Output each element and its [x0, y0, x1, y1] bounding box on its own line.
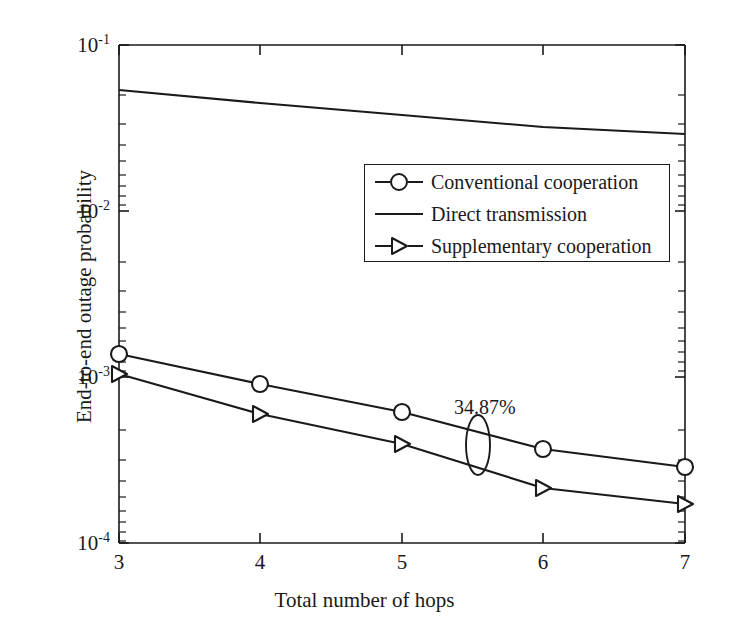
x-tick-label-0: 3: [114, 550, 125, 575]
legend-marker-circle-icon: [373, 170, 425, 194]
y-minor-ticks: [119, 95, 685, 541]
legend-marker-line-icon: [373, 202, 425, 226]
legend-entry-direct-transmission: Direct transmission: [373, 199, 587, 229]
x-tick-label-2: 5: [397, 550, 408, 575]
series-direct-transmission: [119, 90, 685, 134]
legend: Conventional cooperation Direct transmis…: [364, 164, 670, 262]
x-tick-label-4: 7: [680, 550, 691, 575]
x-tick-label-3: 6: [538, 550, 549, 575]
gap-annotation-ellipse: [466, 415, 490, 475]
legend-label-supplementary-cooperation: Supplementary cooperation: [431, 235, 652, 258]
legend-marker-triangle-right-icon: [373, 234, 425, 258]
axis-frame: [119, 45, 685, 543]
gap-annotation-label: 34.87%: [454, 396, 516, 419]
legend-entry-supplementary-cooperation: Supplementary cooperation: [373, 231, 652, 261]
series-conventional-cooperation: [111, 346, 693, 475]
x-axis-title: Total number of hops: [0, 588, 729, 613]
y-tick-label-0: 10-1: [52, 33, 110, 58]
chart-figure: 10-1 10-2 10-3 10-4 3 4 5 6 7 Total numb…: [0, 0, 729, 639]
legend-entry-conventional-cooperation: Conventional cooperation: [373, 167, 638, 197]
legend-label-conventional-cooperation: Conventional cooperation: [431, 171, 638, 194]
legend-label-direct-transmission: Direct transmission: [431, 203, 587, 226]
y-major-ticks: [119, 45, 685, 543]
x-major-ticks: [119, 45, 685, 543]
series-supplementary-cooperation: [112, 366, 693, 512]
x-tick-label-1: 4: [255, 550, 266, 575]
y-tick-label-3: 10-4: [52, 531, 110, 556]
y-axis-title: End-to-end outage probability: [72, 97, 97, 497]
